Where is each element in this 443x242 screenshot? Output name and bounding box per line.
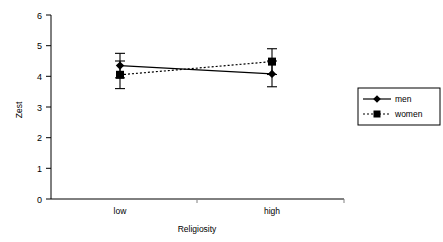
legend-label-men: men [395, 94, 412, 104]
x-category-label-high: high [264, 206, 280, 216]
y-tick-label-4: 4 [37, 72, 42, 82]
x-category-label-low: low [114, 206, 128, 216]
x-axis-title: Religiosity [178, 224, 217, 234]
y-tick-label-3: 3 [37, 103, 42, 113]
chart-figure: 6 5 4 3 2 1 0 Zest low high Religiosity [0, 0, 443, 242]
y-tick-label-5: 5 [37, 41, 42, 51]
y-axis-title: Zest [14, 101, 24, 118]
line-chart-svg: 6 5 4 3 2 1 0 Zest low high Religiosity [0, 0, 443, 242]
chart-legend: men women [358, 88, 440, 125]
y-tick-label-6: 6 [37, 11, 42, 21]
legend-label-women: women [394, 109, 423, 119]
y-tick-label-2: 2 [37, 133, 42, 143]
legend-marker-square-icon [374, 111, 381, 118]
y-tick-label-1: 1 [37, 164, 42, 174]
y-tick-label-0: 0 [37, 195, 42, 205]
